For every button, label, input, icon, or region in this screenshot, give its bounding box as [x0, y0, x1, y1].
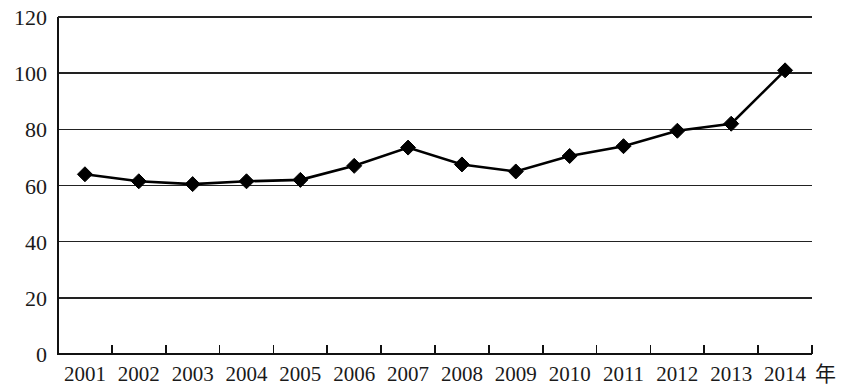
- y-tick-label: 20: [25, 286, 47, 311]
- x-tick-label: 2006: [333, 362, 375, 386]
- chart-canvas: 020406080100120 200120022003200420052006…: [0, 0, 843, 388]
- x-tick-label: 2007: [387, 362, 429, 386]
- y-tick-label: 60: [25, 174, 47, 199]
- y-tick-label: 40: [25, 230, 47, 255]
- x-tick-label: 2008: [441, 362, 483, 386]
- x-tick-label: 2009: [495, 362, 537, 386]
- x-tick-label: 2014: [764, 362, 807, 386]
- x-tick-label: 2011: [603, 362, 644, 386]
- x-tick-label: 2010: [549, 362, 591, 386]
- x-tick-label: 2003: [172, 362, 214, 386]
- chart-background: [0, 0, 843, 388]
- x-tick-label: 2013: [710, 362, 752, 386]
- x-tick-label: 2004: [226, 362, 269, 386]
- y-tick-label: 0: [36, 342, 47, 367]
- x-axis-unit-label: 年: [815, 362, 836, 386]
- y-tick-label: 80: [25, 117, 47, 142]
- x-tick-label: 2002: [118, 362, 160, 386]
- x-tick-label: 2012: [656, 362, 698, 386]
- x-tick-label: 2005: [279, 362, 321, 386]
- y-tick-label: 100: [14, 61, 47, 86]
- y-tick-label: 120: [14, 5, 47, 30]
- line-chart: 020406080100120 200120022003200420052006…: [0, 0, 843, 388]
- x-tick-label: 2001: [64, 362, 106, 386]
